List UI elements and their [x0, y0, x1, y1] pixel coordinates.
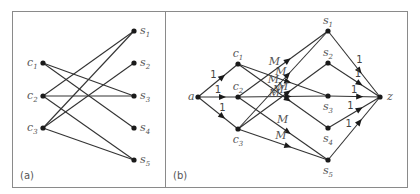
node-s5	[325, 157, 330, 162]
node-s2	[325, 60, 330, 65]
capacity-label: M	[268, 55, 281, 68]
edge-c3-s5	[43, 128, 134, 160]
capacity-label: M	[276, 113, 289, 126]
node-s2	[131, 60, 136, 65]
capacity-label: M	[267, 73, 280, 86]
capacity-label: 1	[355, 68, 361, 79]
node-s5-label: s5	[323, 164, 334, 179]
node-s1-label: s1	[140, 24, 150, 39]
arc-a-c3	[198, 97, 238, 129]
node-z-label: z	[386, 90, 393, 103]
capacity-label: M	[268, 87, 281, 100]
capacity-label: 1	[210, 69, 216, 80]
node-c3	[235, 126, 240, 131]
edge-c2-s5	[43, 96, 134, 160]
node-s2-label: s2	[323, 46, 334, 61]
arrowhead-icon	[283, 56, 292, 65]
node-s5	[131, 157, 136, 162]
node-s1	[131, 28, 136, 33]
capacity-label: 1	[347, 100, 353, 111]
node-c2	[40, 93, 45, 98]
node-c3-label: c3	[27, 121, 38, 136]
edge-c2-s1	[43, 31, 134, 96]
arc-s4-z	[328, 97, 380, 128]
node-c2	[235, 94, 240, 99]
arrowhead-icon	[284, 142, 293, 150]
node-c1-label: c1	[233, 47, 244, 62]
panel-a-bipartite-graph: c1c2c3s1s2s3s4s5	[27, 24, 151, 168]
node-a-label: a	[188, 90, 195, 103]
capacity-label: 1	[351, 84, 357, 95]
node-c2-label: c2	[233, 80, 244, 95]
bipartite-flow-figure: c1c2c3s1s2s3s4s5 111MMMMMMMM11111ac1c2c3…	[0, 0, 420, 194]
node-s5-label: s5	[140, 153, 151, 168]
panel-a-label: (a)	[20, 170, 34, 181]
node-s4-label: s4	[140, 121, 150, 136]
node-s1-label: s1	[323, 14, 333, 29]
panel-b-label: (b)	[173, 170, 187, 181]
capacity-label: 1	[215, 84, 221, 95]
node-c1-label: c1	[27, 56, 38, 71]
node-c3-label: c3	[233, 133, 244, 148]
arrowhead-icon	[355, 105, 364, 114]
node-s2-label: s2	[140, 56, 151, 71]
node-c1	[40, 60, 45, 65]
node-s4	[131, 125, 136, 130]
capacity-label: M	[274, 129, 287, 142]
node-s1	[325, 28, 330, 33]
node-s4	[325, 125, 330, 130]
node-s3-label: s3	[140, 89, 151, 104]
node-c2-label: c2	[27, 89, 38, 104]
node-s3	[325, 93, 330, 98]
arc-s3-z	[328, 96, 380, 97]
panel-b-flow-network: 111MMMMMMMM11111ac1c2c3s1s2s3s4s5z	[188, 14, 393, 179]
node-s3	[131, 93, 136, 98]
node-s4-label: s4	[323, 132, 333, 147]
node-c1	[235, 61, 240, 66]
node-s3-label: s3	[323, 100, 334, 115]
node-c3	[40, 125, 45, 130]
arc-s5-z	[328, 97, 380, 160]
edge-c3-s1	[43, 31, 134, 128]
node-a	[195, 94, 200, 99]
capacity-label: 1	[356, 54, 362, 65]
capacity-label: 1	[219, 102, 225, 113]
capacity-label: 1	[345, 118, 351, 129]
node-z	[377, 94, 382, 99]
